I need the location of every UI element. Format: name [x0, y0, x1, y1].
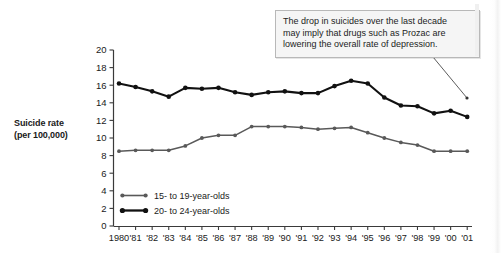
y-tick-label: 0	[101, 220, 106, 231]
y-tick-label: 16	[96, 80, 107, 91]
data-point-marker	[266, 90, 271, 95]
legend-swatch-20-to-24	[119, 206, 149, 215]
chart-figure: Suicide rate (per 100,000) 0246810121416…	[0, 0, 501, 253]
x-tick-label: '91	[295, 233, 307, 243]
legend-label-15-to-19: 15- to 19-year-olds	[154, 191, 230, 201]
callout-line-2: may imply that drugs such as Prozac are	[283, 28, 472, 40]
callout-leader-line-layer	[433, 57, 469, 100]
data-point-marker	[316, 91, 321, 96]
data-point-marker	[416, 143, 420, 147]
data-point-marker	[415, 104, 420, 109]
data-point-marker	[167, 148, 171, 152]
callout-leader-line	[433, 57, 467, 98]
data-point-marker	[150, 89, 155, 94]
data-point-marker	[349, 126, 353, 130]
data-point-marker	[283, 125, 287, 129]
data-point-marker	[200, 136, 204, 140]
data-point-marker	[250, 125, 254, 129]
data-point-marker	[432, 111, 437, 116]
series-line	[119, 81, 467, 117]
data-point-marker	[283, 89, 288, 94]
y-tick-label: 18	[96, 62, 107, 73]
data-point-marker	[382, 95, 387, 100]
data-point-marker	[300, 126, 304, 130]
data-point-marker	[316, 127, 320, 131]
x-tick-label: '90	[279, 233, 291, 243]
data-point-marker	[333, 126, 337, 130]
data-point-marker	[399, 141, 403, 145]
x-tick-label: 1980	[109, 233, 129, 243]
callout-leader-endpoint	[465, 96, 468, 99]
data-point-marker	[183, 86, 188, 91]
legend-item-15-to-19: 15- to 19-year-olds	[119, 191, 230, 201]
x-tick-label: '94	[345, 233, 357, 243]
data-point-marker	[332, 84, 337, 89]
data-point-marker	[465, 115, 470, 120]
data-point-marker	[465, 149, 469, 153]
y-axis-ticks: 02468101214161820	[96, 44, 114, 231]
y-axis-title-line-1: Suicide rate	[14, 117, 98, 129]
data-point-marker	[233, 90, 238, 95]
data-point-marker	[382, 136, 386, 140]
y-tick-label: 8	[101, 150, 106, 161]
y-tick-label: 14	[96, 97, 107, 108]
y-tick-label: 6	[101, 168, 106, 179]
callout-line-3: lowering the overall rate of depression.	[283, 39, 472, 51]
x-tick-label: '01	[461, 233, 473, 243]
data-point-marker	[249, 93, 254, 98]
x-tick-label: '88	[246, 233, 258, 243]
legend-label-20-to-24: 20- to 24-year-olds	[154, 206, 230, 216]
x-tick-label: '98	[411, 233, 423, 243]
series-older	[117, 79, 470, 120]
page-edge-artifact-secondary	[475, 4, 479, 56]
x-tick-label: '82	[146, 233, 158, 243]
data-point-marker	[399, 103, 404, 108]
data-series-layer	[117, 79, 470, 154]
data-point-marker	[217, 133, 221, 137]
data-point-marker	[166, 94, 171, 99]
legend-swatch-15-to-19	[119, 191, 149, 200]
x-tick-label: '85	[196, 233, 208, 243]
x-tick-label: '99	[428, 233, 440, 243]
x-tick-label: '00	[445, 233, 457, 243]
x-tick-label: '83	[163, 233, 175, 243]
data-point-marker	[117, 81, 122, 86]
data-point-marker	[150, 148, 154, 152]
x-axis-ticks: 1980'81'82'83'84'85'86'87'88'89'90'91'92…	[109, 226, 473, 243]
data-point-marker	[117, 149, 121, 153]
data-point-marker	[449, 149, 453, 153]
y-tick-label: 4	[101, 185, 106, 196]
x-tick-label: '93	[329, 233, 341, 243]
data-point-marker	[134, 148, 138, 152]
prozac-callout-box: The drop in suicides over the last decad…	[275, 10, 480, 58]
series-young	[117, 125, 469, 153]
series-line	[119, 127, 467, 152]
x-tick-label: '87	[229, 233, 241, 243]
x-tick-label: '97	[395, 233, 407, 243]
legend-item-20-to-24: 20- to 24-year-olds	[119, 206, 230, 216]
data-point-marker	[183, 144, 187, 148]
data-point-marker	[366, 131, 370, 135]
x-tick-label: '89	[262, 233, 274, 243]
data-point-marker	[216, 86, 221, 91]
data-point-marker	[266, 125, 270, 129]
data-point-marker	[299, 91, 304, 96]
callout-line-1: The drop in suicides over the last decad…	[283, 16, 472, 28]
data-point-marker	[432, 149, 436, 153]
data-point-marker	[349, 79, 354, 84]
y-tick-label: 2	[101, 203, 106, 214]
y-tick-label: 20	[96, 44, 107, 55]
x-tick-label: '81	[130, 233, 142, 243]
y-axis-title: Suicide rate (per 100,000)	[14, 117, 98, 141]
data-point-marker	[200, 86, 205, 91]
y-axis-title-line-2: (per 100,000)	[14, 129, 98, 141]
x-tick-label: '92	[312, 233, 324, 243]
data-point-marker	[133, 85, 138, 90]
x-tick-label: '84	[179, 233, 191, 243]
data-point-marker	[233, 133, 237, 137]
data-point-marker	[448, 108, 453, 113]
data-point-marker	[365, 81, 370, 86]
x-tick-label: '96	[378, 233, 390, 243]
x-tick-label: '86	[212, 233, 224, 243]
x-tick-label: '95	[362, 233, 374, 243]
